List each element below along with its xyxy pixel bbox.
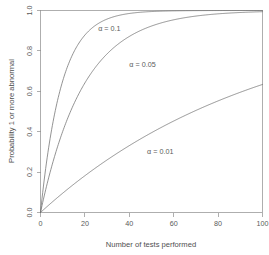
chart-container: 020406080100 0.00.20.40.60.81.0 α = 0.1α…: [0, 0, 269, 255]
y-tick-label: 0.6: [25, 86, 34, 96]
x-tick-label: 80: [214, 219, 222, 228]
y-tick-label: 0.8: [25, 46, 34, 56]
y-tick-label: 0.0: [25, 208, 34, 218]
x-tick-label: 60: [170, 219, 178, 228]
x-tick-label: 100: [257, 219, 269, 228]
y-axis-title: Probability 1 or more abnormal: [7, 59, 16, 163]
x-tick-label: 40: [125, 219, 133, 228]
y-tick-label: 1.0: [25, 6, 34, 16]
curve-label-series-0: α = 0.1: [98, 24, 120, 33]
x-tick-label: 0: [39, 219, 43, 228]
x-axis-title: Number of tests performed: [106, 240, 196, 249]
y-tick-label: 0.4: [25, 127, 34, 137]
curve-label-series-1: α = 0.05: [129, 60, 155, 69]
x-tick-label: 20: [81, 219, 89, 228]
line-chart: 020406080100 0.00.20.40.60.81.0 α = 0.1α…: [0, 0, 269, 255]
y-tick-label: 0.2: [25, 167, 34, 177]
curve-label-series-2: α = 0.01: [147, 147, 173, 156]
